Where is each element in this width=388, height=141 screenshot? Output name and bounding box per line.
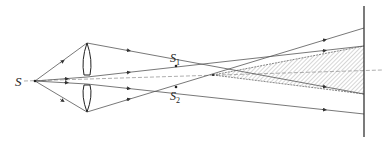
billet-split-lens-diagram: S S1 S2 xyxy=(0,0,388,141)
source-point xyxy=(34,80,37,83)
incident-rays xyxy=(35,43,87,112)
s1-label: S1 xyxy=(170,51,180,67)
lower-lens-half xyxy=(83,85,91,112)
virtual-source-2-point xyxy=(175,86,178,89)
crossing-point xyxy=(212,74,214,76)
source-label: S xyxy=(15,74,22,89)
s2-label: S2 xyxy=(170,89,180,105)
upper-lens-half xyxy=(83,43,91,75)
